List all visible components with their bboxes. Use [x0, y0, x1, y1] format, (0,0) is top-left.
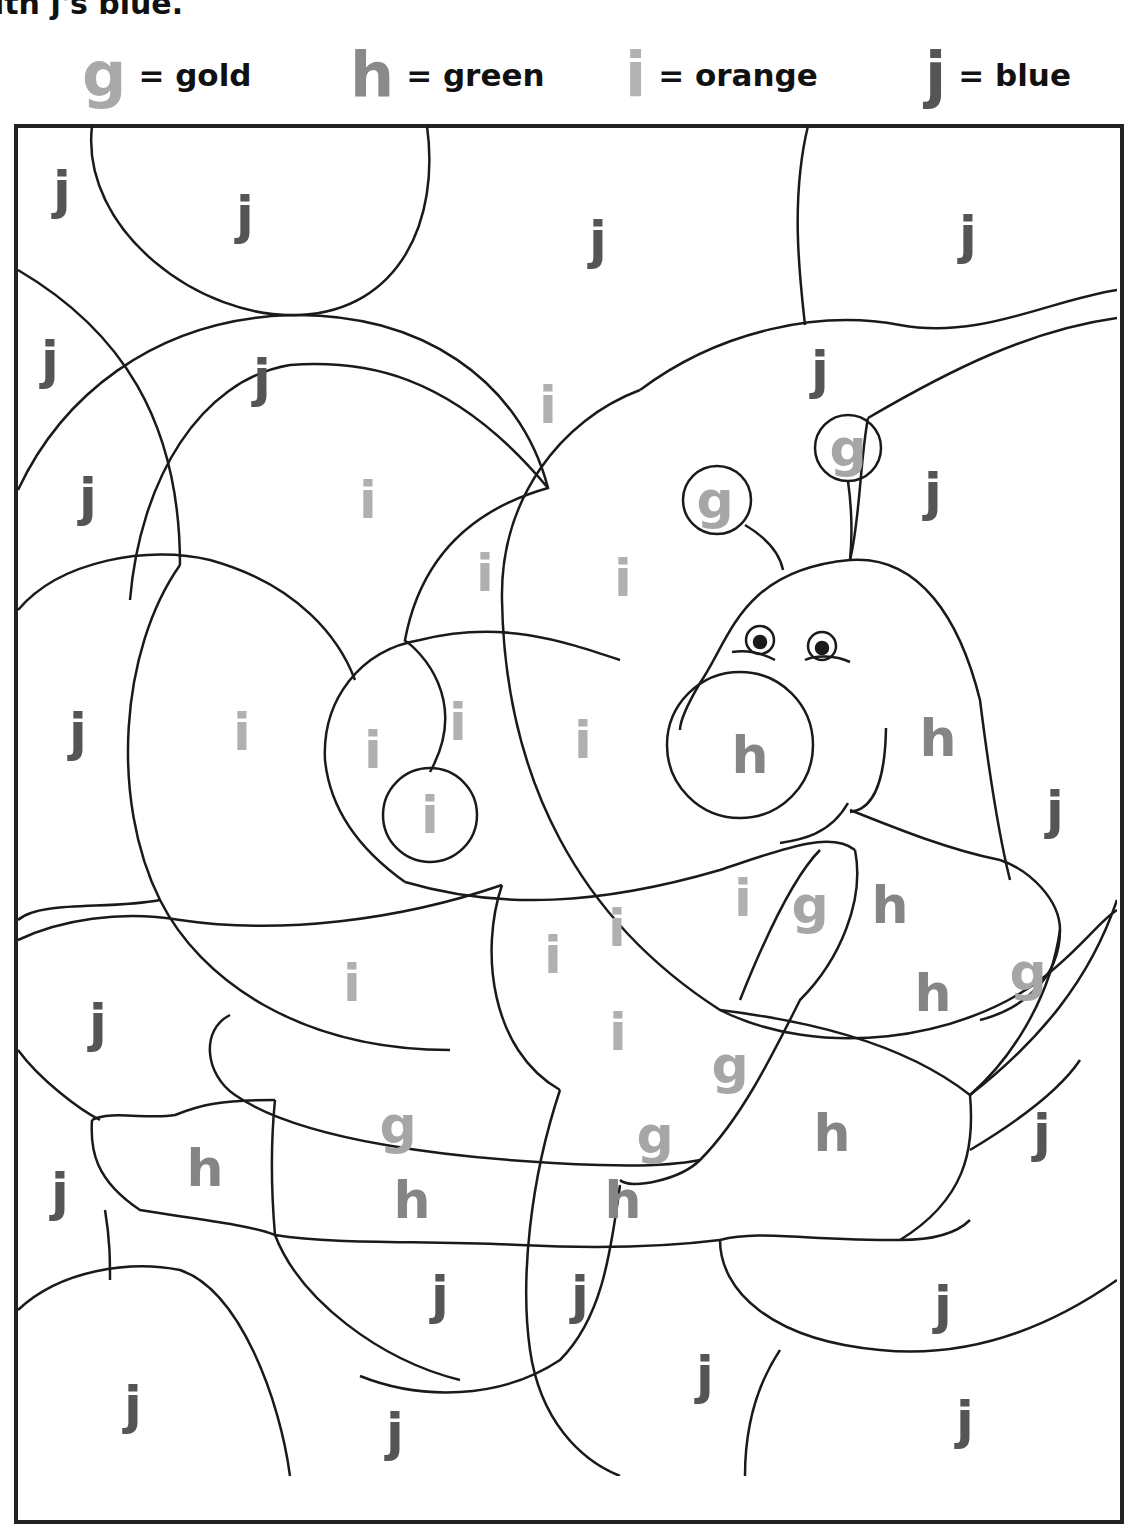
region-letter-j[interactable]: j: [1046, 784, 1064, 836]
region-letter-j[interactable]: j: [934, 1279, 952, 1331]
region-letter-h[interactable]: h: [914, 967, 951, 1019]
region-letter-j[interactable]: j: [811, 344, 829, 396]
region-letter-i[interactable]: i: [359, 474, 377, 526]
region-letter-j[interactable]: j: [959, 209, 977, 261]
region-letter-h[interactable]: h: [919, 712, 956, 764]
region-letter-j[interactable]: j: [386, 1406, 404, 1458]
region-letter-i[interactable]: i: [614, 552, 632, 604]
region-letter-g[interactable]: g: [1009, 946, 1046, 998]
region-letter-i[interactable]: i: [343, 957, 361, 1009]
region-letter-g[interactable]: g: [829, 422, 866, 474]
region-letter-i[interactable]: i: [421, 789, 439, 841]
region-letter-j[interactable]: j: [431, 1269, 449, 1321]
region-letter-i[interactable]: i: [539, 379, 557, 431]
region-letter-h[interactable]: h: [871, 879, 908, 931]
region-letter-g[interactable]: g: [711, 1039, 748, 1091]
region-letter-j[interactable]: j: [41, 334, 59, 386]
region-letter-j[interactable]: j: [69, 706, 87, 758]
region-letter-h[interactable]: h: [813, 1107, 850, 1159]
region-letter-j[interactable]: j: [253, 352, 271, 404]
region-letter-h[interactable]: h: [186, 1142, 223, 1194]
region-letter-h[interactable]: h: [393, 1174, 430, 1226]
region-letter-j[interactable]: j: [124, 1379, 142, 1431]
region-letter-g[interactable]: g: [791, 879, 828, 931]
region-letter-j[interactable]: j: [696, 1349, 714, 1401]
region-letter-i[interactable]: i: [544, 929, 562, 981]
region-letter-i[interactable]: i: [609, 1006, 627, 1058]
region-letter-i[interactable]: i: [734, 872, 752, 924]
region-letter-j[interactable]: j: [1033, 1107, 1051, 1159]
region-letter-g[interactable]: g: [636, 1109, 673, 1161]
region-letter-h[interactable]: h: [731, 729, 768, 781]
region-letter-j[interactable]: j: [956, 1394, 974, 1446]
region-letter-j[interactable]: j: [571, 1269, 589, 1321]
region-letter-g[interactable]: g: [696, 474, 733, 526]
region-letter-j[interactable]: j: [51, 1166, 69, 1218]
region-letter-i[interactable]: i: [476, 547, 494, 599]
region-letter-j[interactable]: j: [89, 997, 107, 1049]
region-letter-i[interactable]: i: [449, 696, 467, 748]
region-letter-i[interactable]: i: [574, 714, 592, 766]
region-letter-j[interactable]: j: [924, 466, 942, 518]
region-letter-j[interactable]: j: [53, 164, 71, 216]
region-letter-j[interactable]: j: [79, 471, 97, 523]
region-letter-j[interactable]: j: [236, 189, 254, 241]
region-letter-i[interactable]: i: [608, 902, 626, 954]
region-letter-i[interactable]: i: [233, 706, 251, 758]
region-letter-g[interactable]: g: [379, 1099, 416, 1151]
region-letter-j[interactable]: j: [589, 214, 607, 266]
region-letter-i[interactable]: i: [364, 724, 382, 776]
region-letter-h[interactable]: h: [604, 1174, 641, 1226]
